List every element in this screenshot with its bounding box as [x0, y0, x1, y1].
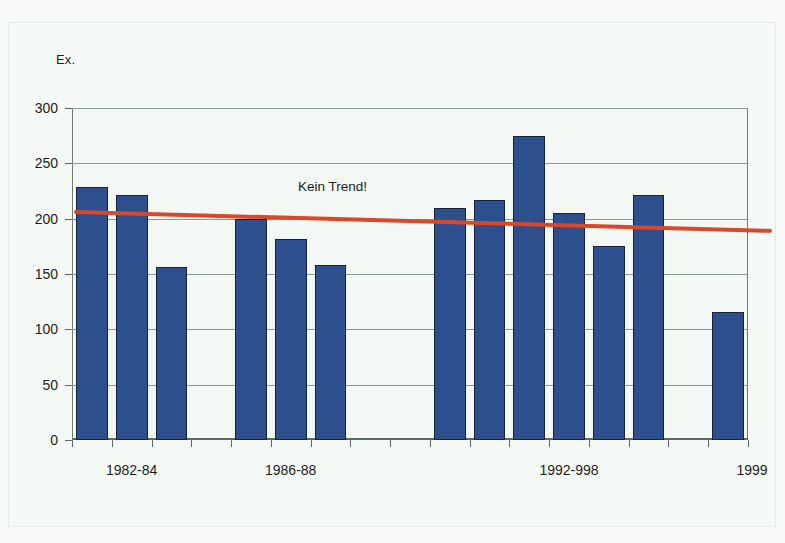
y-tick-label: 150: [35, 266, 58, 282]
figure-container: Ex. 050100150200250300 Kein Trend! 1982-…: [0, 0, 785, 543]
x-tick-mark: [549, 440, 550, 447]
x-tick-mark: [112, 440, 113, 447]
x-axis-group-label: 1986-88: [265, 462, 316, 478]
y-tick-mark: [65, 163, 72, 164]
x-tick-mark: [708, 440, 709, 447]
x-tick-mark: [350, 440, 351, 447]
chart-annotation: Kein Trend!: [298, 179, 367, 194]
x-tick-mark: [72, 440, 73, 447]
x-tick-mark: [191, 440, 192, 447]
x-tick-mark: [589, 440, 590, 447]
x-tick-mark: [629, 440, 630, 447]
x-tick-mark: [311, 440, 312, 447]
x-tick-mark: [509, 440, 510, 447]
x-tick-mark: [430, 440, 431, 447]
y-tick-label: 300: [35, 100, 58, 116]
y-tick-mark: [65, 329, 72, 330]
x-axis-group-label: 1982-84: [106, 462, 157, 478]
y-tick-mark: [65, 440, 72, 441]
plot-area: 050100150200250300 Kein Trend! 1982-8419…: [72, 108, 748, 440]
y-tick-label: 200: [35, 211, 58, 227]
y-tick-label: 50: [42, 377, 58, 393]
trendline: [72, 108, 748, 440]
y-tick-label: 100: [35, 321, 58, 337]
y-tick-label: 0: [50, 432, 58, 448]
x-tick-mark: [390, 440, 391, 447]
y-tick-mark: [65, 274, 72, 275]
x-tick-mark: [748, 440, 749, 447]
y-tick-mark: [65, 219, 72, 220]
y-tick-mark: [65, 108, 72, 109]
y-tick-mark: [65, 385, 72, 386]
y-tick-label: 250: [35, 155, 58, 171]
x-tick-mark: [668, 440, 669, 447]
x-tick-mark: [271, 440, 272, 447]
x-axis-group-label: 1999: [736, 462, 767, 478]
x-axis-group-label: 1992-998: [539, 462, 598, 478]
x-tick-mark: [152, 440, 153, 447]
x-tick-mark: [470, 440, 471, 447]
x-tick-mark: [231, 440, 232, 447]
trendline-path: [76, 212, 770, 231]
y-axis-unit-label: Ex.: [56, 52, 75, 67]
